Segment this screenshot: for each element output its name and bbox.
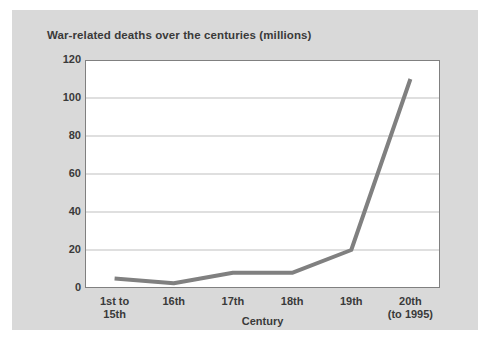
gridlines (85, 60, 440, 250)
y-tick-label: 60 (41, 168, 81, 179)
y-axis-tick-labels: 020406080100120 (37, 10, 81, 345)
y-tick-label: 20 (41, 244, 81, 255)
y-tick-label: 80 (41, 130, 81, 141)
x-axis-title: Century (85, 315, 440, 327)
x-tick-label: 18th (263, 295, 322, 308)
plot-svg (85, 60, 440, 288)
y-tick-label: 40 (41, 206, 81, 217)
data-series-line (115, 79, 411, 283)
x-tick-label: 19th (322, 295, 381, 308)
y-tick-label: 100 (41, 92, 81, 103)
x-tick-label: 16th (144, 295, 203, 308)
y-tick-label: 120 (41, 54, 81, 65)
chart-panel: War-related deaths over the centuries (m… (12, 10, 478, 330)
y-tick-label: 0 (41, 282, 81, 293)
figure: War-related deaths over the centuries (m… (0, 0, 492, 345)
chart-title: War-related deaths over the centuries (m… (47, 29, 311, 41)
plot-area (85, 60, 440, 288)
x-tick-label: 17th (203, 295, 262, 308)
